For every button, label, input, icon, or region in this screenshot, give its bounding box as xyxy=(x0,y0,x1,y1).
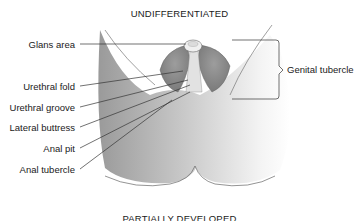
label-lateral-buttress: Lateral buttress xyxy=(10,122,75,133)
label-urethral-groove: Urethral groove xyxy=(10,102,75,113)
left-urethral-fold xyxy=(160,45,190,92)
next-section-title: PARTIALLY DEVELOPED xyxy=(0,213,359,221)
label-anal-tubercle: Anal tubercle xyxy=(20,164,75,175)
label-anal-pit: Anal pit xyxy=(43,143,75,154)
label-genital-tubercle: Genital tubercle xyxy=(287,64,354,75)
label-glans-area: Glans area xyxy=(29,39,75,50)
label-urethral-fold: Urethral fold xyxy=(23,81,75,92)
